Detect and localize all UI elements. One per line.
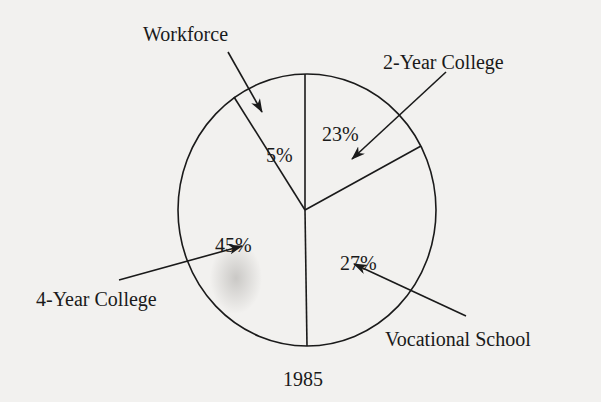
pct-four-year-college: 45% — [215, 234, 252, 256]
label-workforce: Workforce — [143, 23, 228, 45]
label-four-year-college: 4-Year College — [36, 288, 157, 311]
arrow-workforce — [228, 52, 262, 112]
pct-two-year-college: 23% — [322, 123, 359, 145]
pct-workforce: 5% — [266, 144, 293, 166]
pct-vocational-school: 27% — [340, 252, 377, 274]
divider-bottom — [305, 210, 307, 346]
label-vocational-school: Vocational School — [385, 328, 531, 350]
callout-arrows — [119, 52, 466, 316]
pie-chart: Workforce 2-Year College 4-Year College … — [0, 0, 601, 402]
divider-upper-right — [305, 146, 421, 210]
slice-dividers — [234, 74, 421, 346]
arrow-two-year — [352, 72, 446, 159]
label-two-year-college: 2-Year College — [383, 51, 504, 74]
chart-caption-year: 1985 — [283, 368, 323, 390]
